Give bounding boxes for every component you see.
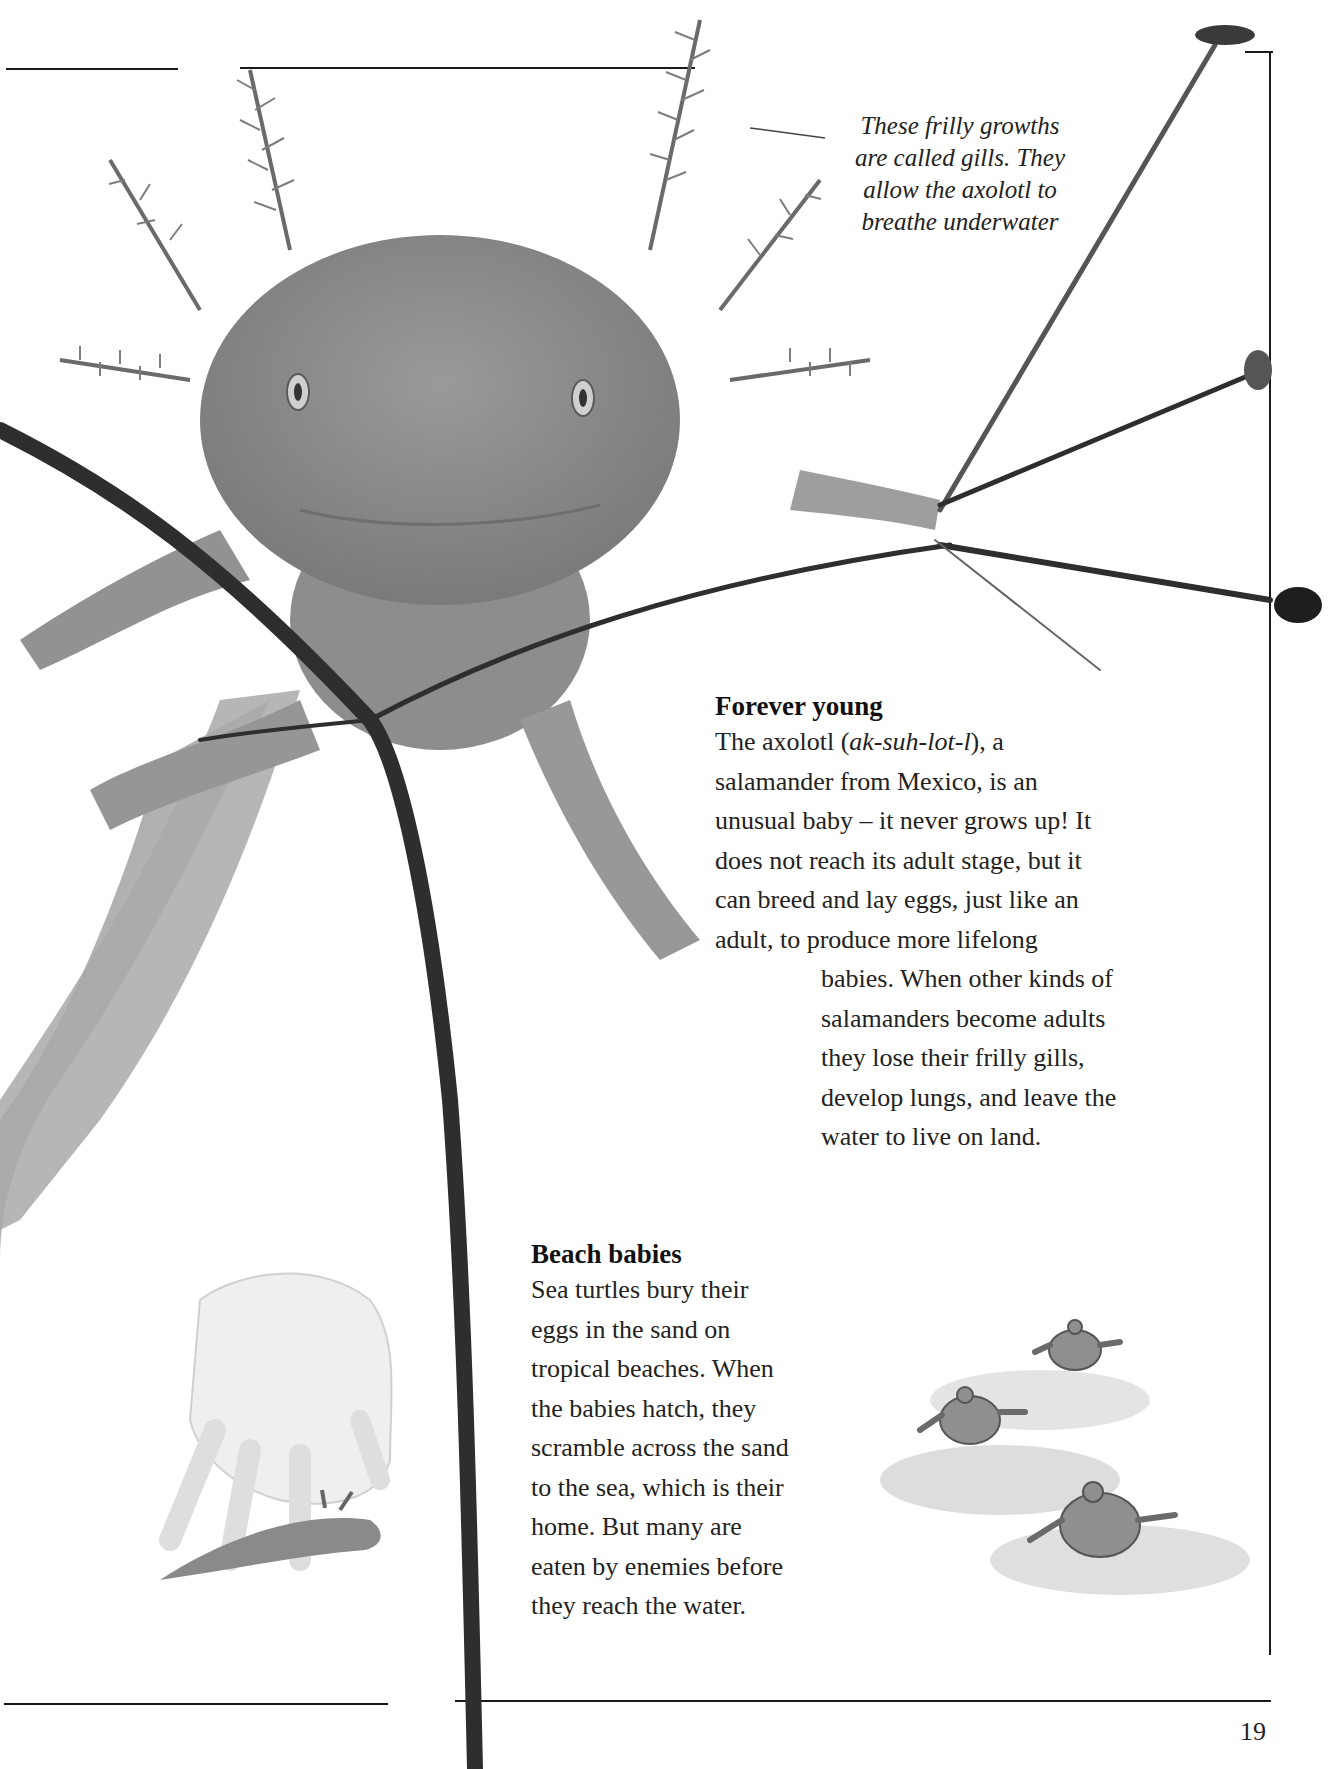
page-number: 19 bbox=[1240, 1717, 1266, 1747]
body-line: they reach the water. bbox=[531, 1586, 789, 1626]
body-line: home. But many are bbox=[531, 1507, 789, 1547]
body-line: develop lungs, and leave the bbox=[715, 1078, 1116, 1118]
body-line: babies. When other kinds of bbox=[715, 959, 1116, 999]
body-line: The axolotl (ak-suh-lot-l), a bbox=[715, 722, 1116, 762]
hand-illustration bbox=[170, 1274, 392, 1560]
body-line: water to live on land. bbox=[715, 1117, 1116, 1157]
body-line: tropical beaches. When bbox=[531, 1349, 789, 1389]
caption-line: are called gills. They bbox=[820, 142, 1100, 174]
body-line: eaten by enemies before bbox=[531, 1547, 789, 1587]
gills-caption: These frilly growths are called gills. T… bbox=[820, 110, 1100, 238]
body-line: does not reach its adult stage, but it bbox=[715, 841, 1116, 881]
beach-babies-heading: Beach babies bbox=[531, 1238, 789, 1270]
body-line: adult, to produce more lifelong bbox=[715, 920, 1116, 960]
forever-young-section: Forever young The axolotl (ak-suh-lot-l)… bbox=[715, 690, 1116, 1157]
turtles-illustration bbox=[880, 1320, 1250, 1595]
body-line: eggs in the sand on bbox=[531, 1310, 789, 1350]
body-line: to the sea, which is their bbox=[531, 1468, 789, 1508]
forever-young-body: The axolotl (ak-suh-lot-l), a salamander… bbox=[715, 722, 1116, 1157]
body-line: salamander from Mexico, is an bbox=[715, 762, 1116, 802]
pronunciation: ak-suh-lot-l bbox=[849, 727, 970, 756]
caption-line: breathe underwater bbox=[820, 206, 1100, 238]
body-line: the babies hatch, they bbox=[531, 1389, 789, 1429]
body-line: salamanders become adults bbox=[715, 999, 1116, 1039]
body-text: The axolotl ( bbox=[715, 727, 849, 756]
body-text: ), a bbox=[971, 727, 1004, 756]
caption-line: allow the axolotl to bbox=[820, 174, 1100, 206]
body-line: scramble across the sand bbox=[531, 1428, 789, 1468]
caption-line: These frilly growths bbox=[820, 110, 1100, 142]
body-line: they lose their frilly gills, bbox=[715, 1038, 1116, 1078]
body-line: Sea turtles bury their bbox=[531, 1270, 789, 1310]
body-line: unusual baby – it never grows up! It bbox=[715, 801, 1116, 841]
body-line: can breed and lay eggs, just like an bbox=[715, 880, 1116, 920]
forever-young-heading: Forever young bbox=[715, 690, 1116, 722]
beach-babies-body: Sea turtles bury their eggs in the sand … bbox=[531, 1270, 789, 1626]
beach-babies-section: Beach babies Sea turtles bury their eggs… bbox=[531, 1238, 789, 1626]
